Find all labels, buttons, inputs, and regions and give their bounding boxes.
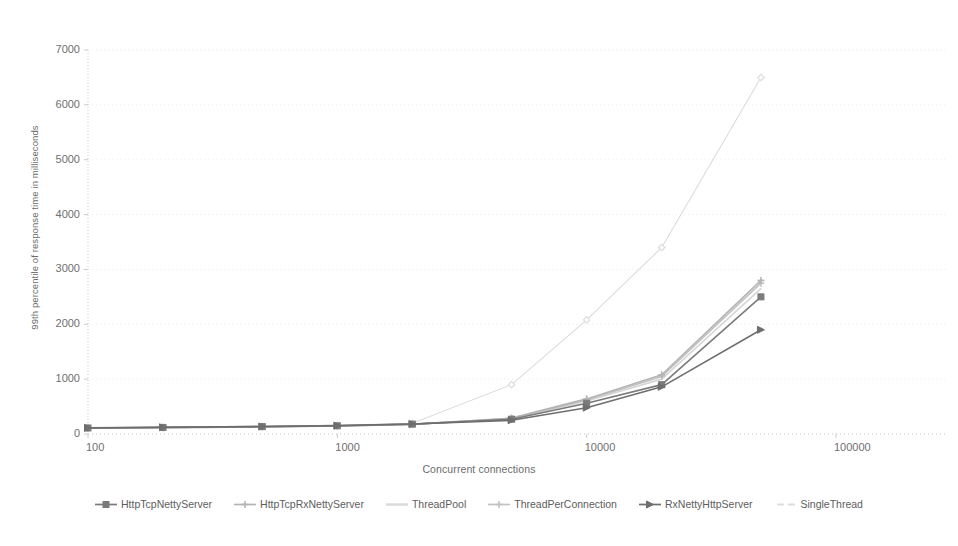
y-tick-label: 4000 bbox=[34, 208, 80, 220]
legend-item[interactable]: HttpTcpRxNettyServer bbox=[234, 498, 364, 510]
series-group bbox=[85, 74, 765, 432]
chart-legend: HttpTcpNettyServerHttpTcpRxNettyServerTh… bbox=[0, 498, 958, 510]
legend-item-label: RxNettyHttpServer bbox=[665, 498, 753, 510]
legend-item[interactable]: RxNettyHttpServer bbox=[639, 498, 753, 510]
legend-triangle-icon bbox=[639, 499, 661, 510]
y-tick-label: 5000 bbox=[34, 153, 80, 165]
gridlines-group bbox=[88, 50, 948, 434]
y-tick-label: 0 bbox=[34, 427, 80, 439]
x-tick-label: 100 bbox=[86, 441, 104, 453]
legend-none-icon bbox=[386, 499, 408, 510]
legend-dash-icon bbox=[775, 499, 797, 510]
legend-plus-icon bbox=[488, 499, 510, 510]
x-tick-label: 1000 bbox=[335, 441, 359, 453]
series-httptcprxnettyserver bbox=[85, 277, 765, 432]
legend-item-label: ThreadPerConnection bbox=[514, 498, 617, 510]
legend-item[interactable]: ThreadPerConnection bbox=[488, 498, 617, 510]
legend-item[interactable]: ThreadPool bbox=[386, 498, 466, 510]
x-tick-label: 100000 bbox=[834, 441, 871, 453]
series-threadpool bbox=[88, 289, 761, 428]
y-tick-label: 7000 bbox=[34, 43, 80, 55]
y-tick-label: 2000 bbox=[34, 317, 80, 329]
legend-item[interactable]: SingleThread bbox=[775, 498, 863, 510]
x-axis-title: Concurrent connections bbox=[0, 463, 958, 475]
legend-plus-icon bbox=[234, 499, 256, 510]
y-tick-label: 6000 bbox=[34, 98, 80, 110]
legend-item-label: SingleThread bbox=[801, 498, 863, 510]
legend-square-icon bbox=[95, 499, 117, 510]
x-tick-label: 10000 bbox=[585, 441, 616, 453]
legend-item-label: HttpTcpRxNettyServer bbox=[260, 498, 364, 510]
y-axis-title: 99th percentile of response time in mill… bbox=[29, 18, 40, 438]
legend-item[interactable]: HttpTcpNettyServer bbox=[95, 498, 212, 510]
series-httptcpnettyserver bbox=[85, 294, 764, 431]
y-tick-label: 1000 bbox=[34, 372, 80, 384]
y-tick-label: 3000 bbox=[34, 262, 80, 274]
legend-item-label: HttpTcpNettyServer bbox=[121, 498, 212, 510]
legend-item-label: ThreadPool bbox=[412, 498, 466, 510]
axis-lines-group bbox=[84, 50, 948, 438]
series-threadperconnection bbox=[85, 280, 765, 432]
chart-container: 01000200030004000500060007000 1001000100… bbox=[0, 0, 958, 546]
